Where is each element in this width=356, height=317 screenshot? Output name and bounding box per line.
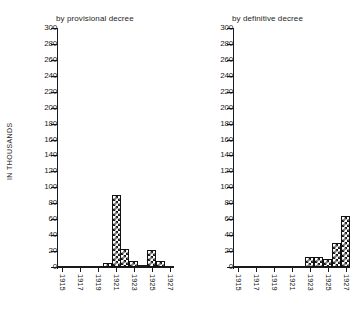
y-axis-tick-label-wrap: 40 (24, 235, 57, 236)
y-axis-tick-label-wrap: 180 (200, 124, 233, 125)
bar (147, 250, 156, 267)
y-axis-tick-label: 300 (209, 24, 233, 32)
bar (314, 257, 323, 267)
y-axis-tick-label: 120 (33, 167, 57, 175)
chart-panel-provisional: by provisional decree 300280260240220200… (0, 0, 178, 317)
y-axis-tick-label: 160 (33, 136, 57, 144)
y-axis-tick-label: 40 (33, 231, 57, 239)
y-axis-tick-label-wrap: 180 (24, 124, 57, 125)
y-axis-tick-label-wrap: 80 (200, 203, 233, 204)
x-axis-tick (170, 268, 171, 272)
x-axis-tick-label: 1925 (148, 274, 156, 291)
x-axis-tick (292, 268, 293, 272)
y-axis-tick-label-wrap: 220 (24, 92, 57, 93)
y-axis-tick-label-wrap: 20 (24, 251, 57, 252)
y-axis-line (233, 28, 234, 269)
y-axis-tick-label: 280 (33, 40, 57, 48)
chart-title-provisional: by provisional decree (56, 14, 134, 23)
bar (76, 266, 85, 267)
y-axis-tick-label-wrap: 0 (24, 267, 57, 268)
y-axis-tick-label: 240 (209, 72, 233, 80)
y-axis-tick-label-wrap: 60 (24, 219, 57, 220)
y-axis-tick-label-wrap: 140 (200, 155, 233, 156)
bar (261, 266, 270, 267)
y-axis-tick-label-wrap: 200 (24, 108, 57, 109)
bar (270, 266, 279, 267)
y-axis-tick-label-wrap: 20 (200, 251, 233, 252)
y-axis-tick-label-wrap: 240 (24, 76, 57, 77)
bar (138, 265, 147, 267)
x-axis-tick-label: 1919 (94, 274, 102, 291)
y-axis-tick-label-wrap: 80 (24, 203, 57, 204)
x-axis-tick (328, 268, 329, 272)
figure-canvas: IN THOUSANDS by provisional decree 30028… (0, 0, 356, 317)
y-axis-tick-label-wrap: 300 (200, 28, 233, 29)
bar (85, 266, 94, 267)
y-axis-tick-label-wrap: 200 (200, 108, 233, 109)
y-axis-tick-label: 220 (209, 88, 233, 96)
y-axis-tick-label: 300 (33, 24, 57, 32)
y-axis-tick-label-wrap: 160 (24, 140, 57, 141)
y-axis-tick-label: 100 (33, 183, 57, 191)
x-axis-tick (134, 268, 135, 272)
y-axis-tick-label-wrap: 260 (24, 60, 57, 61)
y-axis-tick-label: 0 (33, 263, 57, 271)
x-axis-tick-label: 1915 (234, 274, 242, 291)
x-axis-tick-label: 1925 (324, 274, 332, 291)
bar (332, 243, 341, 267)
y-axis-tick-label: 120 (209, 167, 233, 175)
chart-panel-definitive: by definitive decree 3002802602402202001… (176, 0, 354, 317)
x-axis-tick (80, 268, 81, 272)
y-axis-tick-label: 40 (209, 231, 233, 239)
bar (252, 266, 261, 267)
bar (234, 266, 243, 267)
y-axis-tick-label: 240 (33, 72, 57, 80)
chart-title-definitive: by definitive decree (232, 14, 303, 23)
y-axis-tick-label: 80 (33, 199, 57, 207)
y-axis-tick-label-wrap: 100 (200, 187, 233, 188)
x-axis-tick-label: 1917 (252, 274, 260, 291)
bar (243, 266, 252, 267)
x-axis-tick (256, 268, 257, 272)
bar (279, 266, 288, 267)
y-axis-tick-label-wrap: 240 (200, 76, 233, 77)
bar (165, 266, 174, 267)
x-axis-tick-label: 1921 (288, 274, 296, 291)
x-axis-tick (274, 268, 275, 272)
y-axis-tick-label-wrap: 40 (200, 235, 233, 236)
y-axis-tick-label-wrap: 260 (200, 60, 233, 61)
y-axis-tick-label-wrap: 300 (24, 28, 57, 29)
y-axis-tick-label-wrap: 280 (24, 44, 57, 45)
y-axis-tick-label-wrap: 100 (24, 187, 57, 188)
bar (341, 216, 350, 267)
y-axis-tick-label: 260 (209, 56, 233, 64)
bar (156, 261, 165, 267)
x-axis-tick-label: 1917 (76, 274, 84, 291)
y-axis-tick-label-wrap: 220 (200, 92, 233, 93)
y-axis-tick-label: 20 (33, 247, 57, 255)
x-axis-tick (62, 268, 63, 272)
y-axis-tick-label: 140 (209, 151, 233, 159)
y-axis-tick-label-wrap: 0 (200, 267, 233, 268)
y-axis-tick-label: 160 (209, 136, 233, 144)
x-axis-tick (346, 268, 347, 272)
x-axis-tick-label: 1915 (58, 274, 66, 291)
bar (58, 266, 67, 267)
y-axis-tick-label: 100 (209, 183, 233, 191)
y-axis-tick-label: 200 (33, 104, 57, 112)
x-axis-tick-label: 1927 (342, 274, 350, 291)
x-axis-tick (116, 268, 117, 272)
bar (323, 259, 332, 267)
bar (67, 266, 76, 267)
y-axis-tick-label: 0 (209, 263, 233, 271)
y-axis-tick-label: 140 (33, 151, 57, 159)
bar (94, 266, 103, 267)
y-axis-tick-label: 260 (33, 56, 57, 64)
y-axis-tick-label: 60 (33, 215, 57, 223)
y-axis-tick-label-wrap: 280 (200, 44, 233, 45)
y-axis-tick-label-wrap: 60 (200, 219, 233, 220)
bar (103, 263, 112, 267)
y-axis-line (57, 28, 58, 269)
y-axis-tick-label-wrap: 140 (24, 155, 57, 156)
bar (129, 261, 138, 267)
